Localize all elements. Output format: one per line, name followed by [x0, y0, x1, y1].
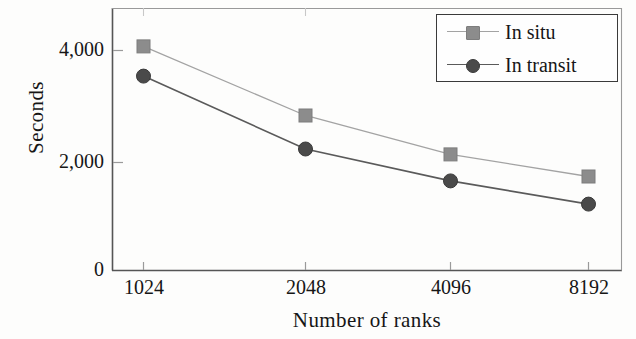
- legend-entry-in-transit: In transit: [437, 48, 619, 82]
- data-point-in-transit-2048: [299, 142, 313, 156]
- y-tick-marks: [113, 51, 123, 163]
- data-point-in-transit-8192: [582, 197, 596, 211]
- legend-entry-in-situ: In situ: [437, 15, 619, 49]
- data-point-in-situ-4096: [444, 148, 457, 161]
- x-tick-label-1024: 1024: [98, 276, 190, 299]
- legend-sample-in-situ: [445, 15, 501, 49]
- data-point-in-situ-2048: [299, 109, 312, 122]
- y-tick-label-0: 0: [12, 258, 104, 281]
- legend-sample-in-transit: [445, 48, 501, 82]
- data-point-in-transit-1024: [137, 69, 151, 83]
- x-axis-title: Number of ranks: [112, 308, 622, 333]
- circle-marker-icon: [466, 59, 480, 73]
- data-point-in-transit-4096: [444, 174, 458, 188]
- data-point-in-situ-8192: [582, 170, 595, 183]
- series-line-in-transit: [144, 76, 589, 204]
- chart-legend: In situ In transit: [436, 14, 618, 82]
- legend-label-in-transit: In transit: [501, 54, 577, 77]
- data-point-in-situ-1024: [137, 40, 150, 53]
- legend-label-in-situ: In situ: [501, 21, 556, 44]
- chart-figure: 4,000 2,000 0 1024 2048 4096 8192 Second…: [0, 0, 636, 339]
- x-tick-label-4096: 4096: [405, 276, 497, 299]
- square-marker-icon: [466, 26, 480, 40]
- y-axis-title: Seconds: [24, 38, 49, 198]
- x-tick-label-2048: 2048: [260, 276, 352, 299]
- x-tick-label-8192: 8192: [543, 276, 635, 299]
